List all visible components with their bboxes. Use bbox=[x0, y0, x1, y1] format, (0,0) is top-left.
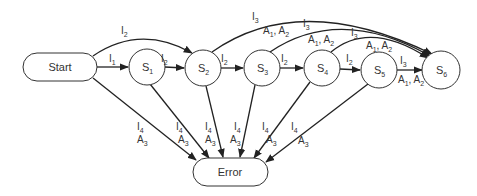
lbl-s4-s6-a: A1, A2 bbox=[366, 40, 392, 53]
lbl-s3-s6-i3: I3 bbox=[303, 18, 310, 31]
edge-s4-error bbox=[254, 82, 310, 158]
lbl-s4-s5: I2 bbox=[346, 53, 353, 66]
lbl-s5-err-a3: A3 bbox=[298, 135, 309, 148]
lbl-start-s2: I2 bbox=[121, 25, 128, 38]
lbl-s2-err-i4: I4 bbox=[205, 121, 212, 134]
lbl-start-err-a3: A3 bbox=[137, 134, 148, 147]
lbl-s4-s6-i3: I3 bbox=[351, 27, 358, 40]
lbl-s5-err-i4: I4 bbox=[291, 121, 298, 134]
state-diagram: Start Error S1 S2 S3 S4 S5 S6 I1 I2 I2 I… bbox=[0, 0, 477, 196]
lbl-s5-s6-a: A1, A2 bbox=[398, 74, 424, 87]
edge-s1-s2 bbox=[165, 67, 184, 68]
lbl-s2-s6-i3: I3 bbox=[252, 11, 259, 24]
lbl-s3-s6-a: A1, A2 bbox=[308, 34, 334, 47]
lbl-s3-err-a3: A3 bbox=[230, 134, 241, 147]
lbl-s2-err-a3: A3 bbox=[205, 134, 216, 147]
lbl-s3-err-i4: I4 bbox=[234, 121, 241, 134]
lbl-s4-err-a3: A3 bbox=[266, 134, 277, 147]
edge-start-error bbox=[93, 78, 196, 160]
lbl-s2-s6-a: A1, A2 bbox=[263, 25, 289, 38]
lbl-s1-err-a3: A3 bbox=[178, 134, 189, 147]
error-label: Error bbox=[218, 166, 243, 178]
lbl-s5-s6-i3: I3 bbox=[400, 55, 407, 68]
lbl-start-err-i4: I4 bbox=[137, 121, 144, 134]
lbl-i1: I1 bbox=[109, 53, 116, 66]
edge-s4-s5 bbox=[340, 69, 360, 70]
edge-s3-error bbox=[240, 85, 255, 157]
edge-s5-error bbox=[266, 84, 368, 162]
lbl-s2-s3: I2 bbox=[221, 53, 228, 66]
start-label: Start bbox=[48, 61, 71, 73]
lbl-s3-s4: I2 bbox=[281, 53, 288, 66]
lbl-s4-err-i4: I4 bbox=[262, 121, 269, 134]
